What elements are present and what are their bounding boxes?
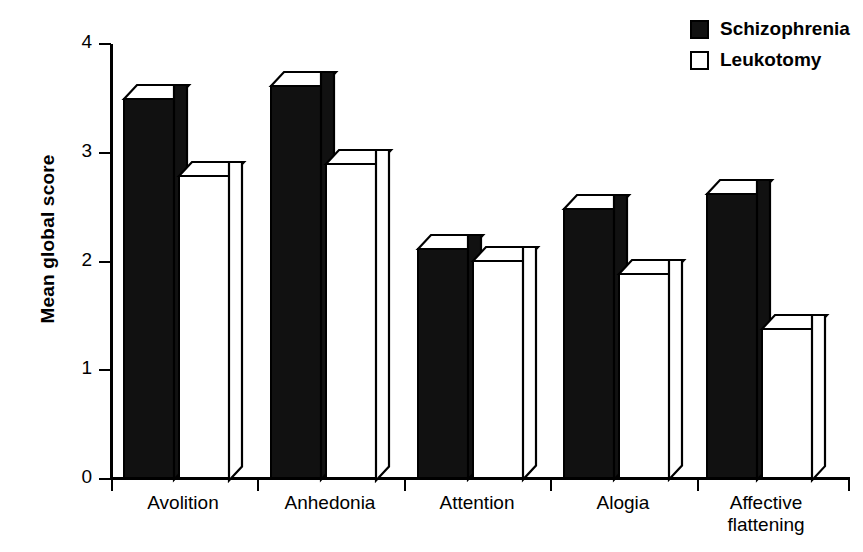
x-axis-tick: [848, 480, 850, 491]
bar-leukotomy-avolition: [178, 161, 243, 480]
legend-swatch-hollow-icon: [690, 51, 709, 70]
x-axis-category-line: Avolition: [103, 492, 263, 514]
bar-front-face: [761, 328, 813, 479]
x-axis-tick: [404, 480, 406, 491]
legend-swatch-filled-icon: [690, 20, 709, 39]
bar-front-face: [325, 163, 377, 479]
bar-front-face: [417, 248, 469, 479]
x-axis-category-line: Affective: [686, 492, 846, 514]
bar-front-face: [178, 175, 230, 480]
y-axis-tick: [99, 152, 111, 154]
x-axis-category-label: Alogia: [543, 492, 703, 514]
legend-item-schizophrenia: Schizophrenia: [690, 18, 850, 40]
y-axis-tick-label: 1: [52, 357, 92, 379]
x-axis-category-line: Attention: [397, 492, 557, 514]
x-axis-category-label: Attention: [397, 492, 557, 514]
bar-front-face: [706, 193, 758, 479]
x-axis-category-line: Alogia: [543, 492, 703, 514]
legend-item-leukotomy: Leukotomy: [690, 49, 850, 71]
y-axis-tick-label: 0: [52, 466, 92, 488]
bar-front-face: [472, 260, 524, 479]
y-axis-tick: [99, 369, 111, 371]
legend-label: Schizophrenia: [720, 18, 850, 40]
y-axis-tick-label: 2: [52, 249, 92, 271]
bar-front-face: [618, 273, 670, 479]
x-axis-category-label: Affectiveflattening: [686, 492, 846, 536]
bar-leukotomy-alogia: [618, 259, 683, 479]
y-axis-tick: [99, 43, 111, 45]
bar-front-face: [270, 85, 322, 479]
legend-label: Leukotomy: [720, 49, 821, 71]
bar-front-face: [123, 98, 175, 479]
y-axis-tick-label: 4: [52, 31, 92, 53]
bar-leukotomy-anhedonia: [325, 149, 390, 479]
y-axis-title: Mean global score: [37, 129, 59, 349]
x-axis-category-line: flattening: [686, 514, 846, 536]
x-axis-tick: [697, 480, 699, 491]
chart-figure: Mean global score 01234 AvolitionAnhedon…: [0, 0, 863, 552]
x-axis-tick: [257, 480, 259, 491]
bar-leukotomy-attention: [472, 246, 537, 479]
chart-legend: Schizophrenia Leukotomy: [690, 18, 850, 80]
x-axis-category-label: Anhedonia: [250, 492, 410, 514]
x-axis-category-line: Anhedonia: [250, 492, 410, 514]
x-axis-tick: [550, 480, 552, 491]
y-axis-tick: [99, 261, 111, 263]
y-axis-tick: [99, 478, 111, 480]
x-axis-tick: [111, 480, 113, 491]
x-axis-category-label: Avolition: [103, 492, 263, 514]
bar-front-face: [563, 208, 615, 479]
bar-leukotomy-affective-flattening: [761, 314, 826, 479]
y-axis-tick-label: 3: [52, 140, 92, 162]
